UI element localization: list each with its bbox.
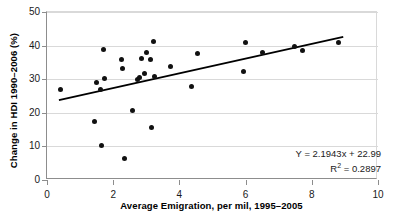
data-point bbox=[142, 71, 147, 76]
data-point bbox=[122, 156, 127, 161]
x-axis-tick-label: 6 bbox=[243, 190, 249, 200]
data-point bbox=[148, 57, 153, 62]
data-point bbox=[168, 64, 173, 69]
regression-equation-label: Y = 2.1943x + 22.99 bbox=[296, 148, 381, 160]
data-point bbox=[92, 119, 97, 124]
x-axis-tick-mark bbox=[47, 180, 48, 185]
r-squared-value: = 0.2897 bbox=[341, 163, 381, 174]
x-axis-tick-mark bbox=[246, 180, 247, 185]
x-axis-tick-mark bbox=[179, 180, 180, 185]
x-axis-tick-label: 4 bbox=[177, 190, 183, 200]
x-axis-title: Average Emigration, per mil, 1995–2005 bbox=[46, 200, 377, 211]
data-point bbox=[120, 66, 125, 71]
data-point bbox=[102, 76, 107, 81]
y-axis-tick-label: 0 bbox=[34, 175, 40, 185]
y-axis-tick-label: 20 bbox=[29, 108, 40, 118]
r-squared-label: R2 = 0.2897 bbox=[330, 160, 381, 175]
data-point bbox=[243, 40, 248, 45]
y-axis-title: Change in HDI 1990–2006 (%) bbox=[8, 16, 19, 186]
data-point bbox=[139, 56, 144, 61]
scatter-chart-figure: Change in HDI 1990–2006 (%) 01020304050 … bbox=[0, 0, 393, 220]
y-axis-title-wrapper: Change in HDI 1990–2006 (%) bbox=[0, 11, 14, 179]
x-axis-tick-label: 0 bbox=[44, 190, 50, 200]
x-axis-tick-label: 8 bbox=[309, 190, 315, 200]
x-axis-tick-label: 2 bbox=[110, 190, 116, 200]
y-axis-tick-label: 10 bbox=[29, 141, 40, 151]
y-axis-tick-label: 50 bbox=[29, 7, 40, 17]
y-axis-tick-label: 30 bbox=[29, 74, 40, 84]
x-axis-tick-label: 10 bbox=[372, 190, 383, 200]
y-axis-tick-label: 40 bbox=[29, 41, 40, 51]
x-axis-tick-mark bbox=[378, 180, 379, 185]
x-axis-tick-mark bbox=[113, 180, 114, 185]
x-axis-tick-mark bbox=[312, 180, 313, 185]
